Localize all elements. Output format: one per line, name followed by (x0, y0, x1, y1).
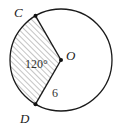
circle-sector-diagram: C D O 120° 6 (0, 0, 121, 129)
label-d: D (19, 111, 30, 126)
point-d (34, 102, 38, 106)
label-c: C (14, 5, 23, 20)
angle-label: 120° (25, 57, 48, 71)
radius-label: 6 (52, 86, 58, 100)
label-o: O (66, 48, 76, 63)
point-c (34, 14, 38, 18)
point-o (59, 58, 63, 62)
